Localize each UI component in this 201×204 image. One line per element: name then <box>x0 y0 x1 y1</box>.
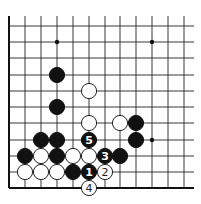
black-stone: 1 <box>81 164 96 179</box>
white-stone <box>33 164 48 179</box>
black-stone-icon <box>49 132 64 147</box>
black-stone <box>112 148 127 163</box>
white-stone <box>49 164 64 179</box>
black-stone-icon <box>17 148 32 163</box>
white-stone <box>65 148 80 163</box>
move-number: 4 <box>86 182 93 195</box>
stones-layer: 53124 <box>17 67 143 195</box>
white-stone <box>112 115 127 130</box>
white-stone <box>81 115 96 130</box>
white-stone: 2 <box>97 164 112 179</box>
white-stone <box>81 148 96 163</box>
black-stone <box>49 132 64 147</box>
black-stone-icon <box>33 132 48 147</box>
black-stone-icon <box>128 132 143 147</box>
black-stone-icon <box>65 164 80 179</box>
white-stone <box>33 148 48 163</box>
white-stone-icon <box>17 164 32 179</box>
white-stone-icon <box>112 115 127 130</box>
black-stone <box>33 132 48 147</box>
white-stone-icon <box>65 148 80 163</box>
move-number: 1 <box>85 166 93 179</box>
black-stone: 5 <box>81 132 96 147</box>
white-stone <box>17 164 32 179</box>
black-stone <box>17 148 32 163</box>
white-stone <box>81 83 96 98</box>
black-stone-icon <box>112 148 127 163</box>
black-stone-icon <box>128 115 143 130</box>
white-stone: 4 <box>81 180 96 195</box>
black-stone-icon <box>49 99 64 114</box>
star-point-icon <box>55 40 59 44</box>
move-number: 3 <box>101 150 109 163</box>
move-number: 2 <box>102 166 109 179</box>
white-stone-icon <box>81 115 96 130</box>
black-stone <box>128 132 143 147</box>
black-stone <box>49 67 64 82</box>
black-stone <box>49 148 64 163</box>
black-stone <box>128 115 143 130</box>
go-board-diagram: 53124 <box>0 0 201 204</box>
white-stone-icon <box>81 83 96 98</box>
move-number: 5 <box>85 134 93 147</box>
star-point-icon <box>150 138 154 142</box>
white-stone-icon <box>49 164 64 179</box>
black-stone: 3 <box>97 148 112 163</box>
star-point-icon <box>150 40 154 44</box>
black-stone-icon <box>49 148 64 163</box>
black-stone <box>49 99 64 114</box>
white-stone-icon <box>33 164 48 179</box>
black-stone-icon <box>49 67 64 82</box>
white-stone-icon <box>33 148 48 163</box>
white-stone-icon <box>81 148 96 163</box>
black-stone <box>65 164 80 179</box>
